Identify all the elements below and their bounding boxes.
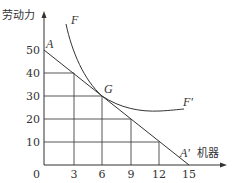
point-g-label: G <box>104 82 113 96</box>
origin-label: 0 <box>33 168 40 181</box>
economics-chart: 50 40 30 20 10 0 3 6 9 12 15 劳动力 机器 A A'… <box>0 0 232 183</box>
x-tick-15: 15 <box>182 168 196 181</box>
x-axis-label: 机器 <box>197 146 219 160</box>
x-tick-6: 6 <box>99 168 106 181</box>
x-axis-arrow-icon <box>220 163 227 168</box>
y-axis-arrow-icon <box>42 11 47 18</box>
isoquant-curve-ff <box>66 24 184 111</box>
x-tick-3: 3 <box>71 168 78 181</box>
y-tick-40: 40 <box>26 67 40 80</box>
x-tick-9: 9 <box>128 168 135 181</box>
point-a-prime-label: A' <box>179 146 190 160</box>
y-tick-30: 30 <box>26 90 40 103</box>
point-a-label: A <box>45 37 54 51</box>
point-f-label: F <box>70 13 79 27</box>
grid-lines <box>44 73 159 165</box>
y-axis-label: 劳动力 <box>2 9 35 22</box>
point-f-prime-label: F' <box>182 95 193 109</box>
budget-line-aa <box>44 50 189 165</box>
x-tick-12: 12 <box>152 168 166 181</box>
y-tick-50: 50 <box>26 44 40 57</box>
y-tick-10: 10 <box>26 136 40 149</box>
axes <box>44 16 222 165</box>
y-tick-20: 20 <box>26 113 40 126</box>
